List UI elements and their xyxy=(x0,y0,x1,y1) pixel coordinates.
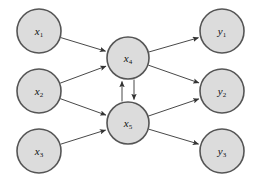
edge-x3-x5 xyxy=(60,130,105,144)
nodes-group: x1x2x3x4x5y1y2y3 xyxy=(17,9,244,173)
node-x1[interactable]: x1 xyxy=(17,9,61,53)
node-circle-x1[interactable] xyxy=(17,9,61,53)
diagram-canvas: x1x2x3x4x5y1y2y3 xyxy=(0,0,256,183)
edge-x5-y2 xyxy=(148,99,198,116)
edge-x2-x4 xyxy=(60,66,106,83)
node-x5[interactable]: x5 xyxy=(107,102,149,144)
edge-x5-y3 xyxy=(149,129,199,144)
node-y2[interactable]: y2 xyxy=(200,69,244,113)
node-circle-x3[interactable] xyxy=(17,129,61,173)
node-circle-y1[interactable] xyxy=(200,9,244,53)
edge-x1-x4 xyxy=(61,38,106,52)
node-circle-y2[interactable] xyxy=(200,69,244,113)
edge-x4-y2 xyxy=(148,65,199,83)
recurrent-edges-group xyxy=(122,80,134,102)
node-x4[interactable]: x4 xyxy=(107,37,149,79)
graph-svg: x1x2x3x4x5y1y2y3 xyxy=(0,0,256,183)
node-x2[interactable]: x2 xyxy=(17,69,61,113)
node-circle-x5[interactable] xyxy=(107,102,149,144)
node-circle-x2[interactable] xyxy=(17,69,61,113)
node-circle-y3[interactable] xyxy=(200,129,244,173)
node-y1[interactable]: y1 xyxy=(200,9,244,53)
edge-x2-x5 xyxy=(60,99,106,115)
node-circle-x4[interactable] xyxy=(107,37,149,79)
edge-x4-y1 xyxy=(149,38,199,52)
node-y3[interactable]: y3 xyxy=(200,129,244,173)
node-x3[interactable]: x3 xyxy=(17,129,61,173)
